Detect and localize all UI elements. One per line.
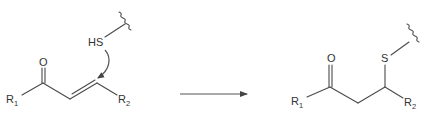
bond-ch-r2 [385,87,403,98]
reactant-enone: R1 O R2 [6,56,130,108]
bond-alkene-2 [72,80,95,94]
reactant-oxygen-label: O [39,56,48,68]
reactant-r2-label: R2 [118,93,130,108]
product-r2-label: R2 [404,96,416,111]
product-oxygen-label: O [327,52,336,64]
bond-s-attachment [391,42,409,55]
bond-carbonyl-alpha [43,83,70,99]
product-r1-label: R1 [291,95,303,110]
curved-mechanism-arrow [98,50,109,78]
bond-beta-r2 [97,83,117,95]
bond-s-attachment [105,24,125,37]
bond-r1-carbonyl [22,83,43,95]
bond-carbonyl-ch2 [330,87,358,103]
reactant-r1-label: R1 [6,93,18,108]
thiol-hs-label: HS [88,36,103,48]
product-sulfur-label: S [381,52,388,64]
wavy-attachment-icon [407,24,419,42]
bond-ch2-ch [358,87,385,103]
thiol-nucleophile: HS [88,12,131,78]
bond-r1-carbonyl [307,87,330,97]
reaction-scheme: R1 O R2 HS R1 O [0,0,432,116]
product-thioether: R1 O R2 S [291,24,419,111]
bond-alkene-1 [70,83,97,99]
